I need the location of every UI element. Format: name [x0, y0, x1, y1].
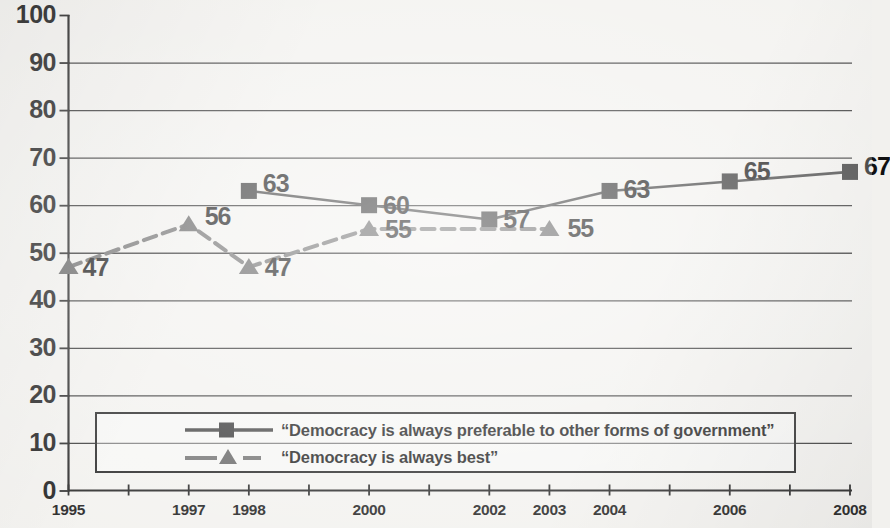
x-axis-tick-label: 2002 [459, 502, 519, 518]
x-axis-tick-label: 1997 [159, 502, 219, 518]
y-axis-tick-label: 70 [0, 145, 56, 170]
data-point-value-label: 63 [263, 171, 289, 196]
triangle-marker-icon [183, 447, 275, 467]
data-point-value-label: 56 [205, 204, 231, 229]
x-axis-tick-label: 2008 [820, 502, 880, 518]
data-point-marker [361, 197, 377, 213]
gridlines [69, 63, 853, 443]
legend-item-label: “Democracy is always best” [281, 448, 498, 467]
y-axis-tick-label: 30 [0, 335, 56, 360]
data-point-value-label: 65 [744, 159, 770, 184]
x-axis-tick-label: 2006 [700, 502, 760, 518]
data-point-value-label: 47 [265, 255, 291, 280]
y-axis-tick-label: 40 [0, 287, 56, 312]
legend-item-label: “Democracy is always preferable to other… [281, 421, 774, 440]
legend-item-0: “Democracy is always preferable to other… [183, 420, 774, 440]
chart-legend: “Democracy is always preferable to other… [95, 412, 796, 473]
data-point-marker [179, 215, 199, 231]
data-point-value-label: 47 [83, 255, 109, 280]
square-marker-icon [183, 420, 275, 440]
y-axis-tick-label: 60 [0, 192, 56, 217]
series-line [69, 224, 550, 267]
x-axis-tick-label: 1995 [39, 502, 99, 518]
series-layer [59, 164, 859, 274]
data-point-marker [481, 211, 497, 227]
y-axis-tick-label: 20 [0, 382, 56, 407]
data-point-value-label: 57 [503, 207, 529, 232]
y-axis-tick-label: 50 [0, 240, 56, 265]
data-point-marker [722, 173, 738, 189]
y-axis-tick-label: 100 [0, 2, 56, 27]
data-point-value-label: 67 [864, 154, 890, 179]
data-point-marker [842, 164, 858, 180]
x-axis-tick-label: 1998 [219, 502, 279, 518]
y-axis-tick-label: 90 [0, 50, 56, 75]
legend-item-1: “Democracy is always best” [183, 447, 498, 467]
y-axis-tick-label: 0 [0, 478, 56, 503]
x-axis-tick-label: 2004 [580, 502, 640, 518]
data-point-marker [602, 183, 618, 199]
data-point-value-label: 55 [567, 216, 593, 241]
data-point-value-label: 55 [385, 217, 411, 242]
data-point-value-label: 63 [624, 177, 650, 202]
y-axis-tick-label: 80 [0, 97, 56, 122]
x-axis-tick-label: 2000 [339, 502, 399, 518]
y-axis-tick-label: 10 [0, 430, 56, 455]
x-axis-tick-label: 2003 [519, 502, 579, 518]
data-point-marker [241, 183, 257, 199]
